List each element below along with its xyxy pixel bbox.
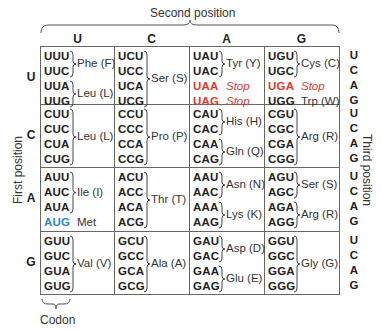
codon-brace: [40, 298, 72, 310]
codon: UUU: [44, 49, 70, 64]
codon: ACG: [118, 215, 144, 230]
first-position-header: C: [24, 128, 38, 142]
brace-icon: [143, 107, 151, 167]
codon: CAA: [193, 137, 219, 152]
amino-acid-label: Leu (L): [77, 130, 113, 142]
first-position-header: U: [24, 70, 38, 84]
codon: ACU: [118, 170, 144, 185]
codon: UUA: [44, 79, 70, 94]
third-position-header: C: [347, 184, 361, 199]
amino-acid-label: Pro (P): [151, 130, 187, 142]
brace-icon: [218, 200, 226, 230]
codon: CCC: [118, 122, 144, 137]
brace-icon: [69, 170, 77, 215]
codon: GGU: [268, 234, 295, 249]
brace-icon: [293, 170, 301, 200]
amino-acid-label: Asp (D): [226, 242, 265, 254]
amino-acid-label: Leu (L): [77, 87, 113, 99]
codon: UAC: [193, 64, 219, 79]
codon: CAC: [193, 122, 219, 137]
first-position-title: First position: [11, 130, 25, 210]
brace-icon: [218, 264, 226, 294]
codon: CGC: [268, 122, 294, 137]
start-codon: AUG: [44, 215, 70, 230]
brace-icon: [218, 137, 226, 167]
amino-acid-label: Asn (N): [226, 178, 265, 190]
third-position-header: G: [347, 151, 361, 166]
third-position-header: C: [347, 121, 361, 136]
codon: GGG: [268, 279, 295, 294]
amino-acid-label: His (H): [226, 115, 262, 127]
third-position-header: A: [347, 199, 361, 214]
codon-cell: ACUACCACAACGThr (T): [115, 168, 189, 230]
codon: UGU: [268, 49, 294, 64]
amino-acid-label: Glu (E): [226, 272, 262, 284]
third-position-header: U: [347, 106, 361, 121]
codon: AGC: [268, 185, 294, 200]
amino-acid-label: Gly (G): [301, 257, 338, 269]
codon: CCU: [118, 107, 144, 122]
brace-icon: [293, 49, 301, 79]
third-position-title: Third position: [360, 125, 374, 215]
third-position-header: G: [347, 278, 361, 293]
codon: AGA: [268, 200, 294, 215]
codon: GUA: [44, 264, 70, 279]
amino-acid-label: Ser (S): [301, 178, 337, 190]
codon-cell: GCUGCCGCAGCGAla (A): [115, 232, 189, 294]
brace-icon: [218, 234, 226, 264]
brace-icon: [69, 107, 77, 167]
amino-acid-label: Val (V): [77, 257, 111, 269]
second-position-header: G: [264, 32, 339, 46]
amino-acid-label: Cys (C): [301, 57, 340, 69]
brace-icon: [218, 107, 226, 137]
codon: CUC: [44, 122, 70, 137]
codon: GUG: [44, 279, 71, 294]
codon: GCG: [118, 279, 145, 294]
codon: GAG: [193, 279, 220, 294]
third-position-header: A: [347, 263, 361, 278]
codon: CCA: [118, 137, 144, 152]
codon-cell: GAUGACGAAGAGAsp (D)Glu (E): [190, 232, 264, 294]
codon: GUU: [44, 234, 70, 249]
first-position-header: G: [24, 255, 38, 269]
codon: GAC: [193, 249, 219, 264]
codon: CGU: [268, 107, 294, 122]
second-position-header: C: [114, 32, 189, 46]
brace-icon: [143, 170, 151, 230]
codon-cell: UGUUGCUGAUGGCys (C)StopTrp (W): [265, 47, 339, 109]
amino-acid-label: Ile (I): [77, 186, 103, 198]
codon-cell: UCUUCCUCAUCGSer (S): [115, 47, 189, 109]
amino-acid-label: Ser (S): [151, 72, 187, 84]
second-position-header: U: [40, 32, 115, 46]
brace-icon: [69, 49, 77, 79]
amino-acid-label: Thr (T): [151, 193, 186, 205]
stop-label: Stop: [301, 80, 325, 92]
codon-table: UUUUUCUUAUUGPhe (F)Leu (L)UCUUCCUCAUCGSe…: [40, 46, 340, 295]
codon-cell: AAUAACAAAAAGAsn (N)Lys (K): [190, 168, 264, 230]
brace-icon: [293, 107, 301, 167]
third-position-header: U: [347, 48, 361, 63]
codon-cell: CUUCUCCUACUGLeu (L): [41, 105, 115, 167]
codon: AAA: [193, 200, 219, 215]
amino-acid-label: Lys (K): [226, 208, 262, 220]
third-position-header: U: [347, 169, 361, 184]
stop-label: Stop: [226, 80, 250, 92]
second-position-title: Second position: [150, 6, 235, 20]
codon: CUU: [44, 107, 70, 122]
third-position-header: A: [347, 136, 361, 151]
codon: AGG: [268, 215, 295, 230]
amino-acid-label: Tyr (Y): [226, 57, 261, 69]
amino-acid-label: Arg (R): [301, 208, 338, 220]
codon: CUA: [44, 137, 70, 152]
codon: AUU: [44, 170, 70, 185]
codon: AGU: [268, 170, 294, 185]
brace-icon: [218, 49, 226, 79]
brace-icon: [143, 49, 151, 109]
codon: CCG: [118, 152, 144, 167]
codon: GGA: [268, 264, 295, 279]
amino-acid-label: Ala (A): [151, 257, 186, 269]
codon: UUC: [44, 64, 70, 79]
codon-cell: CAUCACCAACAGHis (H)Gln (Q): [190, 105, 264, 167]
codon: CGG: [268, 152, 295, 167]
codon: AAG: [193, 215, 219, 230]
